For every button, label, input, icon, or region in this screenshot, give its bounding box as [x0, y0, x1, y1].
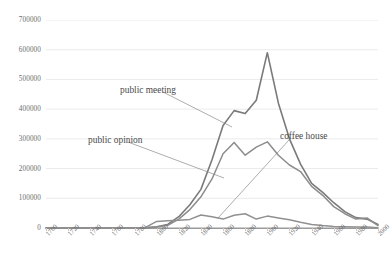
x-axis-labels: 1700172017401760178018001820184018601880…: [0, 228, 386, 267]
series-label-public-opinion: public opinion: [88, 135, 142, 145]
annotation-leader-line: [163, 92, 232, 127]
series-label-coffee-house: coffee house: [280, 131, 327, 141]
series-label-public-meeting: public meeting: [120, 85, 176, 95]
series-line-public-opinion: [46, 142, 378, 228]
annotation-leader-line: [128, 142, 224, 178]
annotation-leader-line: [218, 140, 289, 218]
